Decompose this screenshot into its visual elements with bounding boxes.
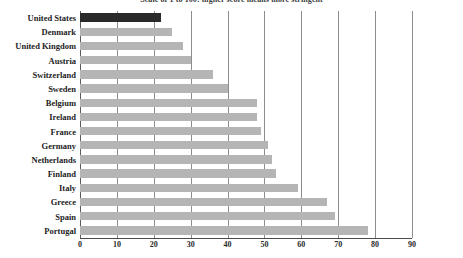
category-label-belgium: Belgium — [0, 96, 76, 110]
bar-united-kingdom — [80, 42, 183, 50]
bar-row: United Kingdom — [0, 39, 463, 53]
category-label-netherlands: Netherlands — [0, 153, 76, 167]
bar-chart: Scale of 1 to 100: higher score means mo… — [0, 0, 463, 258]
category-label-united-states: United States — [0, 11, 76, 25]
category-label-switzerland: Switzerland — [0, 68, 76, 82]
category-label-italy: Italy — [0, 181, 76, 195]
bar-belgium — [80, 99, 257, 107]
bar-row: Austria — [0, 54, 463, 68]
category-label-austria: Austria — [0, 54, 76, 68]
x-tick-10: 10 — [102, 240, 132, 249]
bar-row: France — [0, 125, 463, 139]
bar-france — [80, 127, 261, 135]
bar-row: Belgium — [0, 96, 463, 110]
bar-finland — [80, 169, 276, 177]
bar-row: Spain — [0, 210, 463, 224]
x-tick-70: 70 — [323, 240, 353, 249]
bar-austria — [80, 56, 191, 64]
bar-row: Switzerland — [0, 68, 463, 82]
x-tick-90: 90 — [397, 240, 427, 249]
bar-row: Denmark — [0, 25, 463, 39]
category-label-france: France — [0, 125, 76, 139]
bar-row: Italy — [0, 181, 463, 195]
bar-switzerland — [80, 70, 213, 78]
x-tick-30: 30 — [176, 240, 206, 249]
bar-greece — [80, 198, 327, 206]
x-tick-20: 20 — [139, 240, 169, 249]
bar-denmark — [80, 28, 172, 36]
x-tick-80: 80 — [360, 240, 390, 249]
bar-row: Netherlands — [0, 153, 463, 167]
category-label-greece: Greece — [0, 195, 76, 209]
x-tick-50: 50 — [249, 240, 279, 249]
bar-netherlands — [80, 155, 272, 163]
bar-spain — [80, 212, 335, 220]
bar-row: Germany — [0, 139, 463, 153]
category-label-germany: Germany — [0, 139, 76, 153]
bar-row: Finland — [0, 167, 463, 181]
bar-row: Sweden — [0, 82, 463, 96]
bar-row: United States — [0, 11, 463, 25]
bar-united-states — [80, 13, 161, 22]
category-label-finland: Finland — [0, 167, 76, 181]
x-axis-tick-labels: 0102030405060708090 — [0, 240, 463, 254]
chart-title: Scale of 1 to 100: higher score means mo… — [0, 0, 463, 4]
bar-rows: United StatesDenmarkUnited KingdomAustri… — [0, 11, 463, 238]
x-tick-60: 60 — [286, 240, 316, 249]
bar-portugal — [80, 226, 368, 234]
bar-italy — [80, 184, 298, 192]
bar-row: Portugal — [0, 224, 463, 238]
bar-row: Greece — [0, 195, 463, 209]
category-label-united-kingdom: United Kingdom — [0, 39, 76, 53]
category-label-portugal: Portugal — [0, 224, 76, 238]
bar-row: Ireland — [0, 110, 463, 124]
x-tick-40: 40 — [213, 240, 243, 249]
x-axis-line — [80, 238, 412, 239]
bar-germany — [80, 141, 268, 149]
category-label-denmark: Denmark — [0, 25, 76, 39]
category-label-spain: Spain — [0, 210, 76, 224]
x-tick-0: 0 — [65, 240, 95, 249]
category-label-sweden: Sweden — [0, 82, 76, 96]
category-label-ireland: Ireland — [0, 110, 76, 124]
bar-sweden — [80, 84, 228, 92]
bar-ireland — [80, 113, 257, 121]
